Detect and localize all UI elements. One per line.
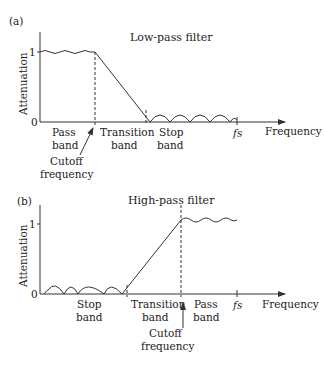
region-label-pass: Pass bbox=[52, 126, 76, 138]
cutoff-label: Cutoff bbox=[149, 327, 183, 339]
region-label-stop-2: band bbox=[76, 311, 103, 323]
cutoff-label: Cutoff bbox=[50, 155, 84, 167]
filter-diagram: (a) Low-pass filter 1 0 Attenuation fs F… bbox=[0, 0, 325, 366]
panel-b-high-pass: (b) High-pass filter 1 0 Attenuation fs … bbox=[17, 194, 319, 352]
panel-a-low-pass: (a) Low-pass filter 1 0 Attenuation fs F… bbox=[9, 15, 322, 180]
cutoff-arrow-icon bbox=[80, 128, 93, 155]
stopband-ripple bbox=[150, 115, 237, 122]
y-tick-label-0: 0 bbox=[31, 116, 38, 128]
region-label-transition-2: band bbox=[111, 139, 138, 151]
region-label-transition: Transition bbox=[100, 126, 155, 138]
y-axis-label: Attenuation bbox=[17, 52, 29, 116]
region-label-transition-2: band bbox=[142, 311, 169, 323]
y-tick-label-1: 1 bbox=[29, 218, 36, 230]
region-label-transition: Transition bbox=[131, 298, 186, 310]
transition-slope bbox=[122, 220, 181, 294]
y-tick-label-0: 0 bbox=[31, 288, 38, 300]
passband-ripple bbox=[181, 218, 237, 222]
x-axis-label: Frequency bbox=[262, 298, 319, 310]
panel-b-tag: (b) bbox=[17, 195, 32, 207]
diagram-canvas: (a) Low-pass filter 1 0 Attenuation fs F… bbox=[0, 0, 325, 366]
fs-label: fs bbox=[232, 127, 243, 139]
region-label-stop-2: band bbox=[157, 139, 184, 151]
y-axis-label: Attenuation bbox=[17, 224, 29, 288]
panel-a-title: Low-pass filter bbox=[130, 31, 213, 44]
stopband-ripple bbox=[44, 286, 122, 294]
region-label-pass-2: band bbox=[52, 139, 79, 151]
cutoff-label-2: frequency bbox=[141, 340, 194, 352]
region-label-pass-2: band bbox=[193, 311, 220, 323]
panel-a-tag: (a) bbox=[9, 15, 23, 27]
region-label-stop: Stop bbox=[159, 126, 184, 138]
y-tick-label-1: 1 bbox=[29, 46, 36, 58]
panel-b-title: High-pass filter bbox=[128, 194, 215, 207]
fs-label: fs bbox=[232, 299, 243, 311]
cutoff-label-2: frequency bbox=[40, 168, 93, 180]
x-axis-label: Frequency bbox=[265, 125, 322, 137]
transition-slope bbox=[95, 52, 150, 122]
region-label-stop: Stop bbox=[77, 298, 102, 310]
passband-ripple bbox=[40, 51, 95, 54]
region-label-pass: Pass bbox=[194, 298, 218, 310]
